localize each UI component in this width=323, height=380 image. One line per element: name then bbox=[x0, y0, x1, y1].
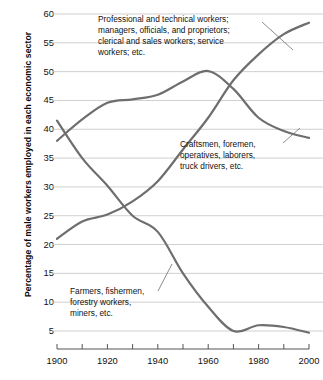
x-tick-label: 1940 bbox=[138, 356, 178, 365]
professional-annotation: Professional and technical workers; mana… bbox=[98, 14, 258, 58]
x-tick-label: 1920 bbox=[87, 356, 127, 365]
farmers-annotation: Farmers, fishermen, forestry workers, mi… bbox=[70, 286, 182, 319]
gridlines bbox=[52, 14, 323, 331]
craftsmen-annotation: Craftsmen, foremen, operatives, laborers… bbox=[180, 139, 298, 172]
x-tick-label: 2000 bbox=[289, 356, 323, 365]
x-tick-label: 1960 bbox=[188, 356, 228, 365]
x-tick-label: 1980 bbox=[239, 356, 279, 365]
x-tick-label: 1900 bbox=[37, 356, 77, 365]
series-line-craftsmen bbox=[57, 71, 309, 141]
line-chart: Percentage of male workers employed in e… bbox=[0, 0, 323, 380]
axis-tick-marks bbox=[57, 344, 309, 349]
